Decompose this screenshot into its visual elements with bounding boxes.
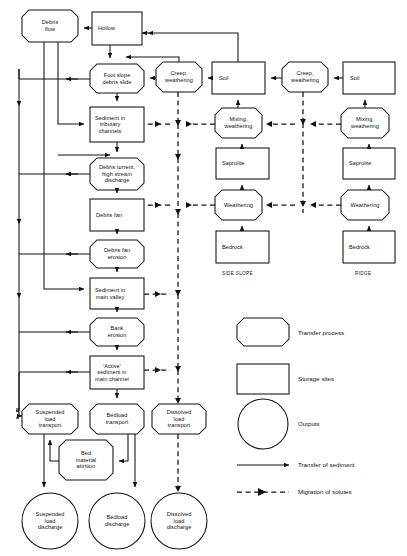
solute-chain-stubs xyxy=(144,294,170,370)
node-debris-torrent[interactable] xyxy=(90,158,144,190)
node-soil-side-slope[interactable] xyxy=(212,62,265,94)
node-saprolite-ridge[interactable] xyxy=(343,148,395,179)
node-saprolite-side-slope[interactable] xyxy=(216,148,269,179)
group-label-ridge: RIDGE xyxy=(355,271,371,276)
node-mixing-weathering-side-slope[interactable] xyxy=(215,108,262,138)
legend-label-storage-sites: Storage sites xyxy=(298,375,334,382)
node-dissolved-load-transport[interactable] xyxy=(152,404,206,434)
legend-circle-icon xyxy=(238,399,288,449)
solute-migration-edges xyxy=(144,92,341,490)
node-bedrock-ridge[interactable] xyxy=(343,231,395,263)
node-weathering-side-slope[interactable] xyxy=(215,190,262,220)
node-debris-fan[interactable] xyxy=(90,199,144,231)
node-mixing-weathering-ridge[interactable] xyxy=(341,108,389,138)
solute-chain-stub-heads xyxy=(155,291,161,373)
node-bank-erosion[interactable] xyxy=(90,318,144,346)
node-suspended-load-transport[interactable] xyxy=(22,404,78,434)
legend-dashed-arrowhead xyxy=(258,488,266,496)
node-creep-weathering-ridge[interactable] xyxy=(282,62,328,92)
group-label-side-slope: SIDE SLOPE xyxy=(222,271,253,276)
node-creep-weathering-side-slope[interactable] xyxy=(156,62,202,92)
legend-label-migration-of-solutes: Migration of solutes xyxy=(298,488,352,495)
node-soil-ridge[interactable] xyxy=(343,62,395,94)
flowchart-canvas xyxy=(0,0,407,556)
node-bedload-discharge[interactable] xyxy=(89,493,145,549)
node-sediment-main-valley[interactable] xyxy=(90,278,144,309)
legend-label-transfer-of-sediment: Transfer of sediment xyxy=(298,461,355,468)
node-debris-flow[interactable] xyxy=(22,10,78,42)
legend-label-outputs: Outputs xyxy=(298,420,320,427)
legend-rect-icon xyxy=(237,364,289,394)
node-suspended-load-discharge[interactable] xyxy=(22,493,78,549)
node-sediment-tributary[interactable] xyxy=(90,107,144,142)
solute-arrowheads xyxy=(155,119,316,492)
node-debris-fan-erosion[interactable] xyxy=(90,240,144,268)
node-dissolved-load-discharge[interactable] xyxy=(151,493,207,549)
sediment-transfer-edges xyxy=(16,28,369,487)
legend-shapes xyxy=(237,318,289,492)
node-foot-slope[interactable] xyxy=(90,64,144,93)
node-bedload-transport[interactable] xyxy=(90,404,144,434)
node-weathering-ridge[interactable] xyxy=(341,190,389,220)
node-bedrock-side-slope[interactable] xyxy=(216,231,269,263)
legend-octagon-icon xyxy=(237,318,289,346)
node-active-sediment[interactable] xyxy=(90,356,144,389)
node-hollow[interactable] xyxy=(92,12,142,45)
legend-label-transfer-process: Transfer process xyxy=(298,329,344,336)
node-bed-material-attrition[interactable] xyxy=(59,440,113,480)
